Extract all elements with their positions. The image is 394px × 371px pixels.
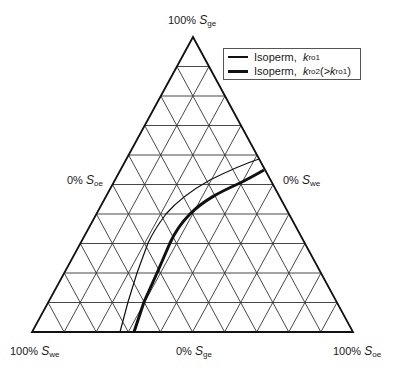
- label-var: S: [195, 344, 203, 358]
- grid-line: [48, 303, 64, 333]
- legend-suffix-close: ): [347, 65, 351, 77]
- grid-line: [257, 244, 305, 333]
- legend: Isoperm, kro1 Isoperm, kro2 (>kro1): [223, 48, 361, 80]
- legend-sub: ro1: [308, 53, 320, 62]
- legend-text: Isoperm,: [254, 65, 297, 77]
- thin-line-swatch-icon: [228, 56, 248, 57]
- legend-item-kro2: Isoperm, kro2 (>kro1): [228, 64, 351, 78]
- label-sub: ge: [203, 350, 212, 359]
- grid-line: [80, 244, 128, 333]
- label-pct: 100%: [10, 345, 38, 357]
- label-pct: 0%: [176, 345, 192, 357]
- thick-line-swatch-icon: [228, 70, 248, 73]
- vertex-label-top: 100% Sge: [168, 13, 216, 28]
- label-pct: 0%: [67, 174, 83, 186]
- legend-suffix: (>: [320, 65, 330, 77]
- legend-item-kro1: Isoperm, kro1: [228, 50, 320, 64]
- label-pct: 100%: [168, 14, 196, 26]
- label-sub: oe: [94, 179, 103, 188]
- label-var: S: [86, 173, 94, 187]
- label-sub: oe: [372, 350, 381, 359]
- legend-text: Isoperm,: [254, 51, 297, 63]
- grid-line: [193, 185, 274, 333]
- label-var: S: [302, 173, 310, 187]
- vertex-label-bottom-left: 100% Swe: [10, 344, 59, 359]
- grid-line: [321, 303, 337, 333]
- label-pct: 100%: [333, 345, 361, 357]
- edge-label-left: 0% Soe: [67, 173, 103, 188]
- label-sub: ge: [207, 19, 216, 28]
- grid-line: [64, 67, 209, 333]
- legend-suffix-sub: ro1: [336, 67, 348, 76]
- vertex-label-bottom-right: 100% Soe: [333, 344, 381, 359]
- label-sub: we: [310, 179, 320, 188]
- grid-line: [113, 185, 193, 333]
- edge-label-right: 0% Swe: [283, 173, 320, 188]
- label-sub: we: [49, 350, 59, 359]
- grid-line: [145, 126, 257, 333]
- legend-sub: ro2: [308, 67, 320, 76]
- grid-line: [177, 67, 321, 333]
- ternary-grid: [48, 67, 337, 333]
- edge-label-bottom: 0% Sge: [176, 344, 212, 359]
- label-pct: 0%: [283, 174, 299, 186]
